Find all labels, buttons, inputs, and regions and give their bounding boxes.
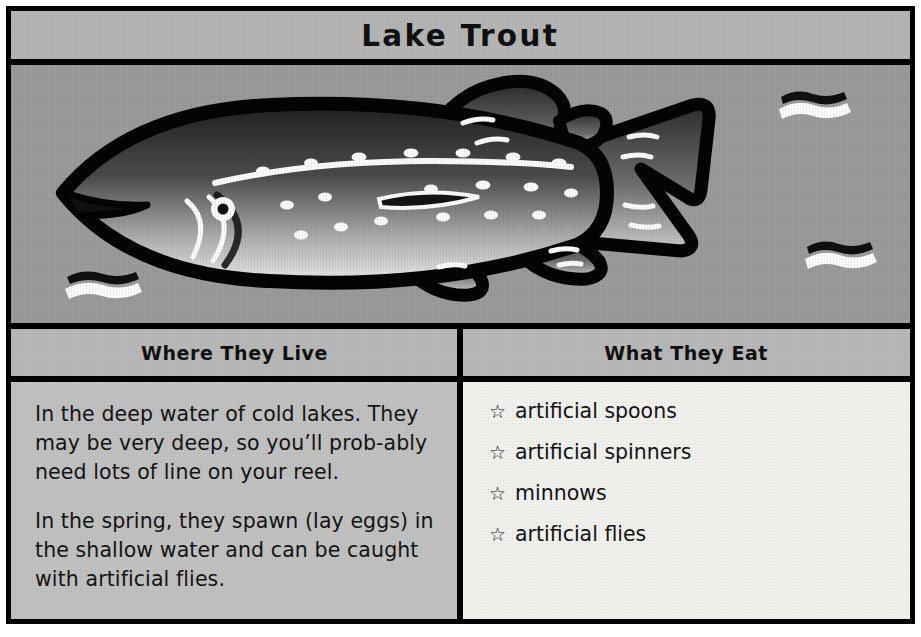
list-item: ☆ artificial spoons [489, 400, 890, 422]
art-texture-overlay [11, 65, 910, 323]
list-item-label: minnows [515, 482, 890, 504]
section-header-where-they-live: Where They Live [11, 329, 457, 376]
lake-trout-illustration [11, 65, 910, 323]
star-bullet-icon: ☆ [489, 482, 515, 504]
section-header-row: Where They Live What They Eat [11, 329, 910, 376]
list-item-label: artificial spinners [515, 441, 890, 463]
section-header-label: What They Eat [605, 341, 769, 365]
star-bullet-icon: ☆ [489, 523, 515, 545]
section-header-what-they-eat: What They Eat [463, 329, 910, 376]
where-paragraph-2: In the spring, they spawn (lay eggs) in … [35, 507, 435, 594]
where-paragraph-1: In the deep water of cold lakes. They ma… [35, 400, 435, 487]
what-they-eat-body: ☆ artificial spoons ☆ artificial spinner… [463, 382, 910, 619]
list-item: ☆ artificial spinners [489, 441, 890, 463]
section-body-row: In the deep water of cold lakes. They ma… [11, 382, 910, 619]
food-list: ☆ artificial spoons ☆ artificial spinner… [489, 400, 890, 545]
page-title: Lake Trout [361, 20, 559, 51]
where-they-live-body: In the deep water of cold lakes. They ma… [11, 382, 457, 619]
list-item: ☆ artificial flies [489, 523, 890, 545]
list-item-label: artificial flies [515, 523, 890, 545]
fact-card: Lake Trout [6, 6, 915, 624]
star-bullet-icon: ☆ [489, 441, 515, 463]
list-item: ☆ minnows [489, 482, 890, 504]
card-title-bar: Lake Trout [11, 11, 910, 59]
list-item-label: artificial spoons [515, 400, 890, 422]
star-bullet-icon: ☆ [489, 400, 515, 422]
fish-illustration-panel [11, 65, 910, 323]
section-header-label: Where They Live [140, 341, 327, 365]
